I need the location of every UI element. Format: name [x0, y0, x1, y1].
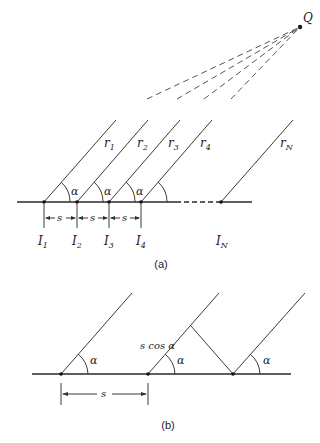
angle-arc-b2 — [165, 354, 175, 374]
spacing-arrow-1: s — [45, 212, 76, 223]
angle-arc-1 — [61, 182, 70, 202]
figure-b: s cos α α α α s (b) — [32, 293, 305, 431]
dashed-line-1 — [147, 27, 300, 99]
element-b3 — [231, 372, 235, 376]
element-i4 — [139, 200, 143, 204]
ray-label-r3: r3 — [168, 136, 179, 152]
svg-text:s: s — [57, 212, 62, 223]
angle-arc-2 — [94, 182, 103, 202]
ray-r3 — [109, 120, 180, 202]
ray-label-r1: r1 — [104, 136, 115, 152]
point-label-i1: I1 — [37, 234, 48, 250]
angle-arc-3 — [126, 182, 135, 202]
perpendicular-line — [191, 326, 233, 374]
element-b1 — [59, 372, 63, 376]
element-i2 — [75, 200, 79, 204]
svg-text:s: s — [90, 212, 95, 223]
angle-arc-b3 — [250, 354, 260, 374]
angle-label-b2: α — [177, 354, 185, 367]
point-label-in: IN — [215, 234, 229, 250]
element-b2 — [146, 372, 150, 376]
angle-label-b3: α — [263, 354, 271, 367]
angle-arc-4 — [158, 182, 167, 202]
caption-a: (a) — [154, 258, 167, 270]
angle-arc-b1 — [78, 354, 88, 374]
source-label-q: Q — [303, 11, 313, 25]
ray-label-r4: r4 — [200, 136, 211, 152]
spacing-arrow-2: s — [78, 212, 108, 223]
element-i1 — [42, 200, 46, 204]
spacing-arrow-b: s — [62, 388, 147, 399]
dashed-line-4 — [231, 27, 300, 99]
angle-label-3: α — [136, 185, 144, 198]
angle-label-1: α — [71, 185, 79, 198]
point-label-i2: I2 — [71, 234, 82, 250]
angle-label-b1: α — [90, 354, 98, 367]
figure-a: Q r1 r2 r3 r4 rN α α α — [17, 11, 313, 270]
point-label-i4: I4 — [135, 234, 146, 250]
dashed-line-2 — [177, 27, 300, 99]
angle-label-2: α — [104, 185, 112, 198]
ray-label-r2: r2 — [137, 136, 148, 152]
point-label-i3: I3 — [103, 234, 114, 250]
ray-rn — [221, 120, 293, 202]
svg-text:s: s — [122, 212, 127, 223]
projection-label: s cos α — [140, 340, 175, 351]
ray-r4 — [141, 120, 212, 202]
caption-b: (b) — [161, 419, 174, 431]
spacing-arrow-3: s — [110, 212, 140, 223]
element-i3 — [107, 200, 111, 204]
ray-label-rn: rN — [280, 136, 294, 152]
dashed-line-3 — [204, 27, 300, 99]
svg-text:s: s — [101, 388, 106, 399]
element-in — [219, 200, 223, 204]
array-geometry-diagram: Q r1 r2 r3 r4 rN α α α — [0, 0, 320, 443]
